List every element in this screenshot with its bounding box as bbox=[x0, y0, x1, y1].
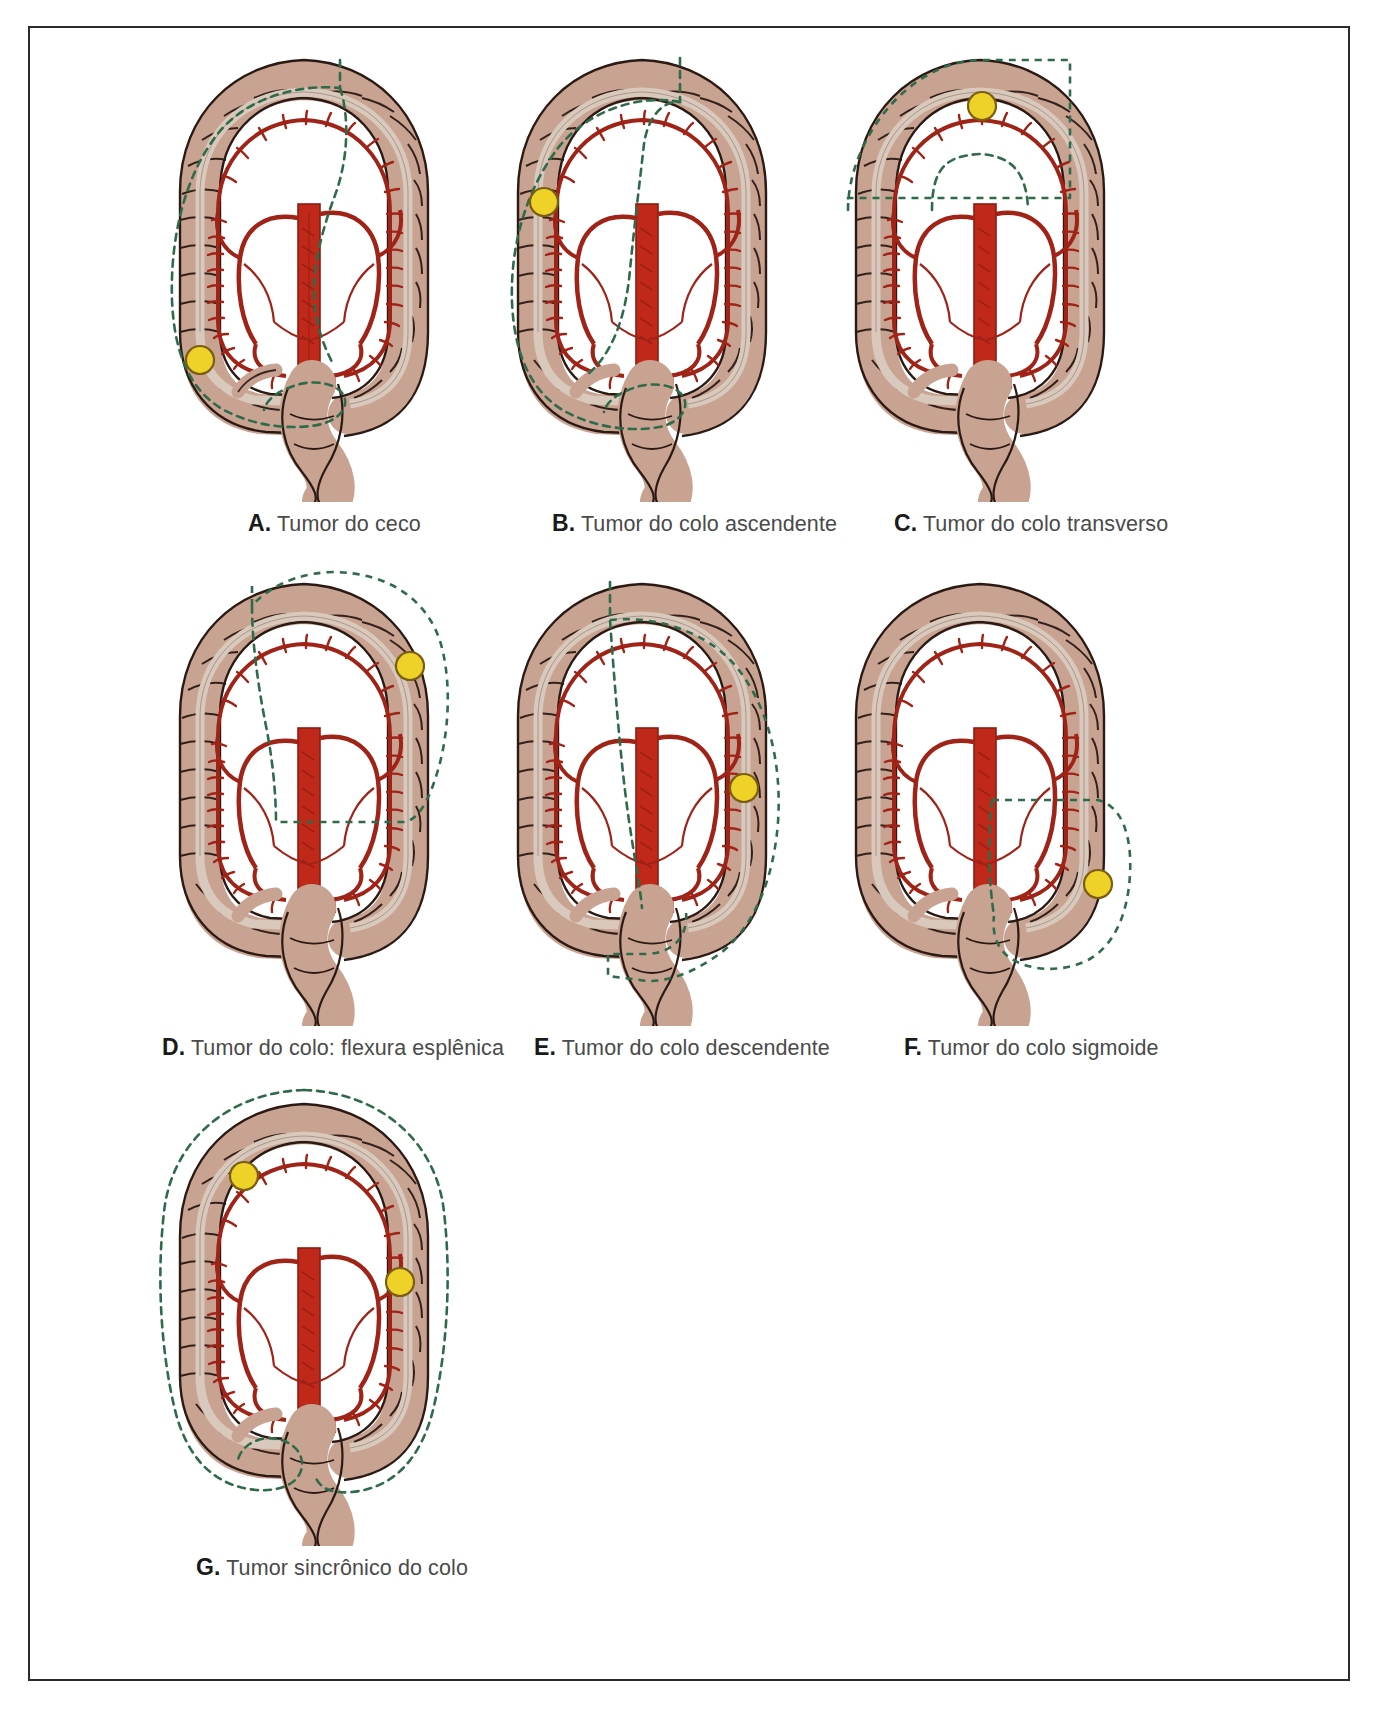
panel-C[interactable]: C. Tumor do colo transverso bbox=[802, 32, 1158, 552]
panel-label-B: B. bbox=[552, 510, 575, 536]
colon-diagram-B bbox=[464, 32, 820, 502]
caption-E: E. Tumor do colo descendente bbox=[534, 1034, 830, 1061]
panel-text-C: Tumor do colo transverso bbox=[923, 512, 1168, 536]
panel-label-E: E. bbox=[534, 1034, 556, 1060]
colon-diagram-E bbox=[464, 556, 820, 1026]
panel-F[interactable]: F. Tumor do colo sigmoide bbox=[802, 556, 1158, 1076]
caption-B: B. Tumor do colo ascendente bbox=[552, 510, 837, 537]
ileum-appendix bbox=[914, 894, 952, 916]
tumor-marker-ascending[interactable] bbox=[230, 1162, 258, 1190]
ileum-appendix bbox=[576, 370, 614, 392]
panel-A[interactable]: A. Tumor do ceco bbox=[126, 32, 482, 552]
ileum-appendix bbox=[238, 370, 276, 392]
panel-grid: A. Tumor do ceco bbox=[30, 28, 1348, 1679]
mesenteric-vessels bbox=[546, 111, 740, 388]
caption-A: A. Tumor do ceco bbox=[248, 510, 421, 537]
panel-text-E: Tumor do colo descendente bbox=[562, 1036, 830, 1060]
colon-diagram-C bbox=[802, 32, 1158, 502]
tumor-marker-ascending[interactable] bbox=[530, 188, 558, 216]
tumor-marker-descending[interactable] bbox=[386, 1268, 414, 1296]
colon-diagram-A bbox=[126, 32, 482, 502]
mesenteric-vessels bbox=[884, 635, 1078, 912]
panel-label-A: A. bbox=[248, 510, 271, 536]
mesenteric-vessels bbox=[546, 635, 740, 912]
panel-text-D: Tumor do colo: flexura esplênica bbox=[191, 1036, 504, 1060]
tumor-marker-descending[interactable] bbox=[730, 774, 758, 802]
figure-frame: A. Tumor do ceco bbox=[28, 26, 1350, 1681]
colon-diagram-F bbox=[802, 556, 1158, 1026]
panel-text-F: Tumor do colo sigmoide bbox=[928, 1036, 1159, 1060]
panel-B[interactable]: B. Tumor do colo ascendente bbox=[464, 32, 820, 552]
ileum-appendix bbox=[238, 894, 276, 916]
panel-E[interactable]: E. Tumor do colo descendente bbox=[464, 556, 820, 1076]
caption-C: C. Tumor do colo transverso bbox=[894, 510, 1168, 537]
caption-F: F. Tumor do colo sigmoide bbox=[904, 1034, 1159, 1061]
panel-text-B: Tumor do colo ascendente bbox=[581, 512, 837, 536]
mesenteric-vessels bbox=[208, 111, 402, 388]
mesenteric-vessels bbox=[208, 635, 402, 912]
colon-diagram-D bbox=[126, 556, 482, 1026]
tumor-marker-transverse[interactable] bbox=[968, 92, 996, 120]
tumor-marker-sigmoid[interactable] bbox=[1084, 870, 1112, 898]
caption-D: D. Tumor do colo: flexura esplênica bbox=[162, 1034, 504, 1061]
tumor-marker-splenic-flexure[interactable] bbox=[396, 652, 424, 680]
ileum-appendix bbox=[576, 894, 614, 916]
panel-text-A: Tumor do ceco bbox=[277, 512, 421, 536]
panel-G[interactable]: G. Tumor sincrônico do colo bbox=[126, 1076, 482, 1596]
panel-text-G: Tumor sincrônico do colo bbox=[226, 1556, 468, 1580]
mesenteric-vessels bbox=[208, 1155, 402, 1432]
panel-D[interactable]: D. Tumor do colo: flexura esplênica bbox=[126, 556, 482, 1076]
tumor-marker-cecum[interactable] bbox=[186, 346, 214, 374]
panel-label-C: C. bbox=[894, 510, 917, 536]
colon-diagram-G bbox=[126, 1076, 482, 1546]
caption-G: G. Tumor sincrônico do colo bbox=[196, 1554, 468, 1581]
ileum-appendix bbox=[238, 1414, 276, 1436]
mesenteric-vessels bbox=[884, 111, 1078, 388]
ileum-appendix bbox=[914, 370, 952, 392]
panel-label-F: F. bbox=[904, 1034, 922, 1060]
panel-label-G: G. bbox=[196, 1554, 220, 1580]
panel-label-D: D. bbox=[162, 1034, 185, 1060]
